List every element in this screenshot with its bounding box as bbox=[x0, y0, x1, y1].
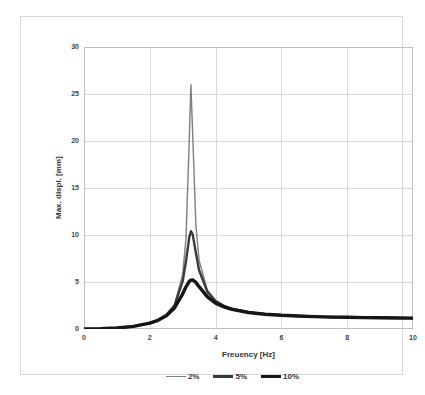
legend: 2%5%10% bbox=[41, 372, 424, 381]
legend-line-sample bbox=[261, 375, 281, 378]
chart-figure: Max. displ. [mm] Freuency [Hz] 051015202… bbox=[0, 0, 425, 395]
y-tick-label: 15 bbox=[57, 184, 79, 192]
y-tick-label: 30 bbox=[57, 43, 79, 51]
legend-line-sample bbox=[166, 376, 186, 377]
plot-area-svg bbox=[84, 47, 413, 329]
chart-area: Max. displ. [mm] Freuency [Hz] 051015202… bbox=[20, 16, 403, 375]
legend-item-5pct: 5% bbox=[213, 372, 247, 381]
x-tick-label: 8 bbox=[337, 334, 357, 342]
legend-item-10pct: 10% bbox=[261, 372, 299, 381]
legend-label: 5% bbox=[235, 372, 247, 381]
x-tick-label: 10 bbox=[403, 334, 423, 342]
series-line-10pct bbox=[84, 280, 413, 329]
y-tick-label: 25 bbox=[57, 90, 79, 98]
legend-line-sample bbox=[213, 375, 233, 377]
y-tick-label: 20 bbox=[57, 137, 79, 145]
x-tick-label: 4 bbox=[206, 334, 226, 342]
x-tick-label: 2 bbox=[140, 334, 160, 342]
series-line-5pct bbox=[84, 231, 413, 329]
y-tick-label: 0 bbox=[57, 325, 79, 333]
x-axis-title: Freuency [Hz] bbox=[84, 350, 413, 359]
legend-label: 2% bbox=[188, 372, 200, 381]
y-tick-label: 10 bbox=[57, 231, 79, 239]
legend-label: 10% bbox=[283, 372, 299, 381]
legend-item-2pct: 2% bbox=[166, 372, 200, 381]
x-tick-label: 0 bbox=[74, 334, 94, 342]
series-line-2pct bbox=[84, 85, 413, 329]
x-tick-label: 6 bbox=[271, 334, 291, 342]
y-tick-label: 5 bbox=[57, 278, 79, 286]
